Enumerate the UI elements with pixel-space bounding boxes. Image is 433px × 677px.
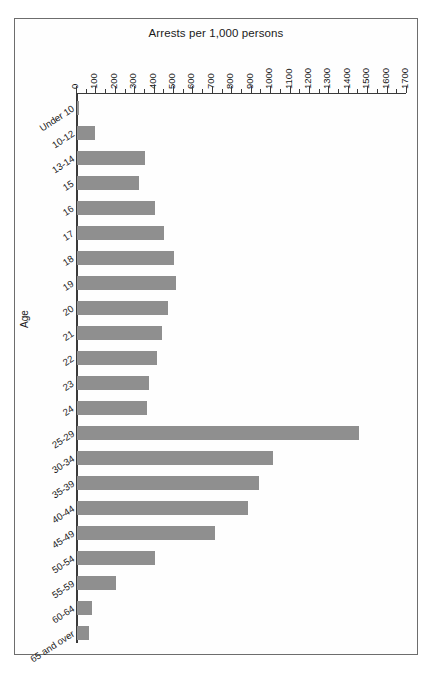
x-tick-minor [86, 89, 87, 93]
x-tick-label: 500 [166, 73, 177, 89]
category-label: 15 [61, 177, 76, 192]
x-tick-minor [202, 89, 203, 93]
bar [77, 176, 139, 190]
category-label: 30-34 [50, 452, 76, 474]
bar [77, 126, 95, 140]
x-tick-major [309, 86, 310, 93]
x-axis-tick-labels: 0100200300400500600700800900100011001200… [76, 19, 406, 91]
category-label: 45-49 [50, 527, 76, 549]
x-tick-label: 600 [185, 73, 196, 89]
bar [77, 276, 176, 290]
bar [77, 626, 89, 640]
category-label: 55-59 [50, 577, 76, 599]
x-tick-label: 1600 [380, 68, 391, 89]
bar [77, 576, 116, 590]
x-tick-major [76, 86, 77, 93]
y-axis-category-labels: Under 1010-1213-141516171819202122232425… [15, 93, 77, 645]
x-tick-minor [357, 89, 358, 93]
x-tick-label: 0 [69, 84, 80, 89]
x-tick-minor [163, 89, 164, 93]
bar [77, 376, 149, 390]
category-label: 25-29 [50, 427, 76, 449]
bar [77, 551, 155, 565]
x-tick-major [348, 86, 349, 93]
bar [77, 451, 273, 465]
category-label: 23 [61, 377, 76, 392]
x-tick-label: 100 [88, 73, 99, 89]
category-label: 22 [61, 352, 76, 367]
x-tick-major [212, 86, 213, 93]
x-tick-label: 200 [108, 73, 119, 89]
category-label: 13-14 [50, 152, 76, 174]
x-tick-label: 1200 [302, 68, 313, 89]
x-tick-minor [377, 89, 378, 93]
x-tick-major [290, 86, 291, 93]
x-tick-major [251, 86, 252, 93]
x-tick-minor [241, 89, 242, 93]
x-tick-minor [319, 89, 320, 93]
chart-figure: Arrests per 1,000 persons 01002003004005… [14, 18, 418, 655]
bar [77, 426, 359, 440]
bar [77, 501, 248, 515]
x-tick-major [328, 86, 329, 93]
bar [77, 351, 157, 365]
bar [77, 226, 164, 240]
x-tick-major [173, 86, 174, 93]
x-tick-label: 900 [244, 73, 255, 89]
x-tick-label: 800 [224, 73, 235, 89]
x-tick-label: 1400 [341, 68, 352, 89]
category-label: 18 [61, 252, 76, 267]
x-tick-minor [260, 89, 261, 93]
bar [77, 476, 259, 490]
bar [77, 401, 147, 415]
x-tick-minor [105, 89, 106, 93]
bar [77, 251, 174, 265]
category-label: 50-54 [50, 552, 76, 574]
category-label: 20 [61, 302, 76, 317]
x-tick-major [192, 86, 193, 93]
bar [77, 301, 168, 315]
bar [77, 326, 162, 340]
category-label: 17 [61, 227, 76, 242]
category-label: 60-64 [50, 602, 76, 624]
category-label: 10-12 [50, 127, 76, 149]
x-tick-minor [125, 89, 126, 93]
x-tick-minor [280, 89, 281, 93]
x-tick-major [231, 86, 232, 93]
x-tick-minor [144, 89, 145, 93]
bar [77, 201, 155, 215]
bar [77, 526, 215, 540]
x-tick-major [406, 86, 407, 93]
category-label: 40-44 [50, 502, 76, 524]
x-tick-minor [338, 89, 339, 93]
x-tick-label: 300 [127, 73, 138, 89]
x-tick-major [115, 86, 116, 93]
x-tick-minor [396, 89, 397, 93]
category-label: 16 [61, 202, 76, 217]
x-tick-minor [222, 89, 223, 93]
bar [77, 151, 145, 165]
x-tick-label: 1300 [321, 68, 332, 89]
category-label: 24 [61, 402, 76, 417]
plot-area [76, 93, 406, 643]
x-tick-label: 1000 [263, 68, 274, 89]
x-tick-label: 700 [205, 73, 216, 89]
bar [77, 101, 79, 115]
x-tick-major [134, 86, 135, 93]
category-label: 19 [61, 277, 76, 292]
x-tick-minor [183, 89, 184, 93]
x-tick-label: 400 [147, 73, 158, 89]
bar [77, 601, 92, 615]
x-tick-minor [299, 89, 300, 93]
category-label: 21 [61, 327, 76, 342]
category-label: 35-39 [50, 477, 76, 499]
x-tick-label: 1700 [399, 68, 410, 89]
x-tick-label: 1500 [360, 68, 371, 89]
x-tick-major [154, 86, 155, 93]
x-axis-line [76, 93, 406, 94]
x-tick-major [95, 86, 96, 93]
x-tick-major [270, 86, 271, 93]
category-label: 65 and over [28, 627, 76, 664]
x-tick-label: 1100 [283, 69, 294, 89]
x-tick-major [387, 86, 388, 93]
